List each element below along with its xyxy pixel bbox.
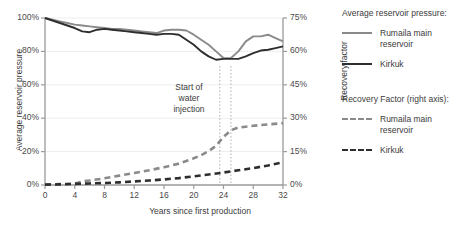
y-axis-left-tick-label: 60% bbox=[5, 79, 39, 89]
series-line-rumaila-main-reservoir-right bbox=[45, 123, 283, 184]
y-axis-right-tick-label: 45% bbox=[290, 79, 324, 89]
y-axis-left-tick-label: 100% bbox=[5, 12, 39, 22]
y-axis-left-tick-label: 40% bbox=[5, 112, 39, 122]
y-axis-right-tick-label: 75% bbox=[290, 12, 324, 22]
legend-item-recovery-kirkuk[interactable]: Kirkuk bbox=[342, 145, 467, 156]
series-line-kirkuk-right bbox=[45, 162, 283, 184]
legend-heading-pressure: Average reservoir pressure: bbox=[342, 8, 467, 19]
y-axis-left-tick-label: 80% bbox=[5, 45, 39, 55]
y-axis-left-title: Average reservoir pressure bbox=[14, 20, 24, 180]
chart-legend: Average reservoir pressure: Rumaila main… bbox=[342, 8, 467, 165]
x-axis-title: Years since first production bbox=[110, 206, 290, 216]
series-line-kirkuk-left bbox=[45, 18, 283, 60]
x-axis-tick-label: 20 bbox=[182, 190, 206, 200]
legend-swatch-solid-dark-icon bbox=[342, 59, 372, 70]
series-line-rumaila-main-reservoir-left bbox=[45, 18, 283, 58]
x-axis-tick-label: 24 bbox=[212, 190, 236, 200]
legend-item-pressure-rumaila[interactable]: Rumaila main reservoir bbox=[342, 28, 467, 50]
x-axis-tick-label: 28 bbox=[241, 190, 265, 200]
x-axis-tick-label: 8 bbox=[93, 190, 117, 200]
y-axis-right-tick-label: 0% bbox=[290, 179, 324, 189]
reservoir-pressure-recovery-chart: Average reservoir pressure Recovery fact… bbox=[0, 0, 467, 226]
legend-heading-recovery: Recovery Factor (right axis): bbox=[342, 94, 467, 105]
x-axis-tick-label: 12 bbox=[122, 190, 146, 200]
annotation-line-2: water bbox=[158, 93, 220, 104]
annotation-line-3: injection bbox=[158, 104, 220, 115]
y-axis-right-tick-label: 60% bbox=[290, 45, 324, 55]
legend-label-recovery-kirkuk: Kirkuk bbox=[380, 145, 404, 156]
legend-swatch-dashed-gray-icon bbox=[342, 114, 372, 125]
legend-label-pressure-kirkuk: Kirkuk bbox=[380, 59, 404, 70]
x-axis-tick-label: 32 bbox=[271, 190, 295, 200]
y-axis-left-tick-label: 20% bbox=[5, 146, 39, 156]
y-axis-right-tick-label: 15% bbox=[290, 146, 324, 156]
water-injection-annotation: Start of water injection bbox=[158, 82, 220, 115]
x-axis-tick-label: 4 bbox=[63, 190, 87, 200]
x-axis-tick-label: 16 bbox=[152, 190, 176, 200]
y-axis-left-tick-label: 0% bbox=[5, 179, 39, 189]
annotation-line-1: Start of bbox=[158, 82, 220, 93]
legend-item-pressure-kirkuk[interactable]: Kirkuk bbox=[342, 59, 467, 70]
x-axis-tick-label: 0 bbox=[33, 190, 57, 200]
y-axis-right-tick-label: 30% bbox=[290, 112, 324, 122]
legend-item-recovery-rumaila[interactable]: Rumaila main reservoir bbox=[342, 114, 467, 136]
legend-label-pressure-rumaila: Rumaila main reservoir bbox=[380, 28, 467, 50]
legend-label-recovery-rumaila: Rumaila main reservoir bbox=[380, 114, 467, 136]
legend-swatch-solid-gray-icon bbox=[342, 28, 372, 39]
legend-swatch-dashed-dark-icon bbox=[342, 145, 372, 156]
